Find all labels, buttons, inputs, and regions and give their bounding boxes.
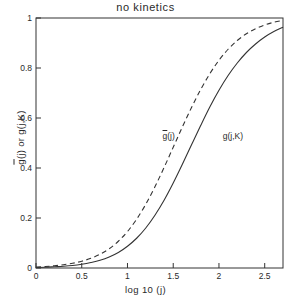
y-tick-label: 0.6: [2, 113, 32, 123]
y-tick-label: 0.4: [2, 163, 32, 173]
plot-frame: [36, 18, 283, 268]
gbar-label-rest: (j): [167, 131, 175, 141]
gbar-curve-label: g(j): [163, 131, 175, 141]
x-tick-label: 1: [112, 271, 142, 281]
gjk-curve-label: g(j,K): [223, 131, 243, 141]
series-line-gbar: [36, 20, 283, 267]
y-tick-label: 0.8: [2, 63, 32, 73]
y-tick-label: 0.2: [2, 213, 32, 223]
y-axis-ticks: [36, 18, 41, 268]
series-line-gjk: [36, 27, 283, 267]
chart-figure: no kinetics g(j) or g(j,K) log 10 (j) 00…: [0, 0, 291, 301]
plot-area: [0, 0, 291, 301]
x-tick-label: 0.5: [67, 271, 97, 281]
y-tick-label: 1: [2, 13, 32, 23]
x-tick-label: 0: [21, 271, 51, 281]
x-tick-label: 2.5: [250, 271, 280, 281]
x-tick-label: 1.5: [158, 271, 188, 281]
x-tick-label: 2: [204, 271, 234, 281]
